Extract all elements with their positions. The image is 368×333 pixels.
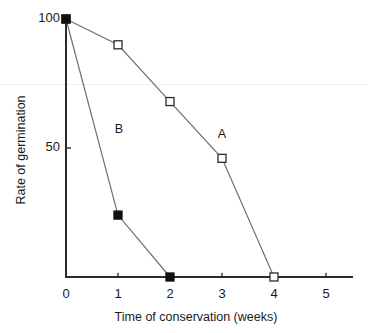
y-axis-title: Rate of germination bbox=[14, 95, 28, 204]
series-annotation-B: B bbox=[115, 122, 123, 136]
data-point-B-2 bbox=[166, 273, 174, 281]
data-point-A-1 bbox=[114, 41, 122, 49]
x-tick-label: 0 bbox=[62, 286, 69, 301]
series-lines bbox=[66, 19, 274, 277]
series-annotation-A: A bbox=[218, 127, 227, 141]
x-tick-label: 3 bbox=[218, 286, 225, 301]
chart-canvas: 012345 50100 AB Time of conservation (we… bbox=[0, 0, 368, 333]
series-line-A bbox=[66, 19, 274, 277]
data-point-A-3 bbox=[218, 154, 226, 162]
x-axis-title: Time of conservation (weeks) bbox=[115, 310, 278, 324]
x-tick-label: 2 bbox=[166, 286, 173, 301]
series-markers bbox=[62, 15, 278, 281]
y-tick-label: 50 bbox=[46, 139, 60, 154]
series-annotations: AB bbox=[115, 122, 227, 141]
data-point-A-4 bbox=[270, 273, 278, 281]
x-tick-label: 4 bbox=[270, 286, 277, 301]
data-point-A-2 bbox=[166, 98, 174, 106]
x-tick-label: 1 bbox=[114, 286, 121, 301]
x-axis-tick-labels: 012345 bbox=[62, 286, 329, 301]
data-point-B-0 bbox=[62, 15, 70, 23]
germination-rate-chart: 012345 50100 AB Time of conservation (we… bbox=[0, 0, 368, 333]
y-axis-tick-labels: 50100 bbox=[38, 10, 60, 154]
x-tick-label: 5 bbox=[322, 286, 329, 301]
series-line-B bbox=[66, 19, 170, 277]
y-tick-label: 100 bbox=[38, 10, 60, 25]
data-point-B-1 bbox=[114, 211, 122, 219]
